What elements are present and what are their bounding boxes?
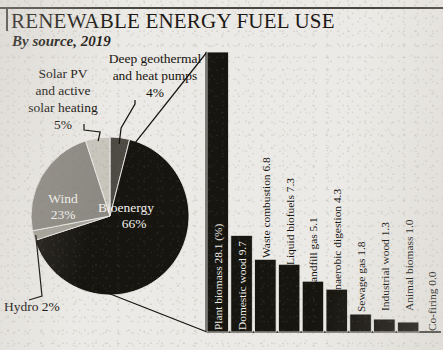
bar-label-plant-biomass: Plant biomass 28.1 (%) [212, 223, 225, 330]
bar-chart: Plant biomass 28.1 (%)Domestic wood 9.7W… [0, 0, 443, 350]
bar-animal-biomass[interactable] [397, 322, 419, 332]
bar-group[interactable]: Industrial wood 1.3 [374, 222, 396, 332]
bar-group[interactable]: Domestic wood 9.7 [231, 235, 253, 332]
bar-label-animal-biomass: Animal biomass 1.0 [403, 219, 415, 311]
bar-group[interactable]: Co-firing 0.0 [426, 271, 438, 331]
bar-industrial-wood[interactable] [374, 319, 396, 332]
page-subtitle: By source, 2019 [12, 34, 111, 49]
bar-group[interactable]: Animal biomass 1.0 [397, 219, 419, 332]
bar-label-co-firing: Co-firing 0.0 [426, 271, 438, 331]
bar-group[interactable]: Landfill gas 5.1 [302, 217, 324, 332]
bar-label-domestic-wood: Domestic wood 9.7 [236, 241, 248, 330]
bar-label-industrial-wood: Industrial wood 1.3 [379, 222, 391, 311]
bar-liquid-biofuels[interactable] [278, 264, 300, 332]
bar-group[interactable]: Anaerobic digestion 4.3 [326, 189, 348, 332]
page-title: RENEWABLE ENERGY FUEL USE [11, 11, 335, 32]
bar-label-landfill-gas: Landfill gas 5.1 [307, 217, 319, 289]
bar-sewage-gas[interactable] [350, 314, 372, 332]
bar-label-waste-combustion: Waste combustion 6.8 [260, 157, 272, 258]
bar-group[interactable]: Liquid biofuels 7.3 [278, 178, 300, 332]
bar-label-liquid-biofuels: Liquid biofuels 7.3 [284, 178, 296, 265]
bar-group[interactable]: Plant biomass 28.1 (%) [207, 52, 229, 332]
bar-label-sewage-gas: Sewage gas 1.8 [355, 241, 367, 312]
bar-label-anaerobic-digestion: Anaerobic digestion 4.3 [331, 189, 343, 298]
bar-group[interactable]: Waste combustion 6.8 [255, 157, 277, 332]
infographic-page: RENEWABLE ENERGY FUEL USE By source, 201… [0, 0, 443, 350]
bar-group[interactable]: Sewage gas 1.8 [350, 241, 372, 332]
bar-waste-combustion[interactable] [255, 259, 277, 332]
